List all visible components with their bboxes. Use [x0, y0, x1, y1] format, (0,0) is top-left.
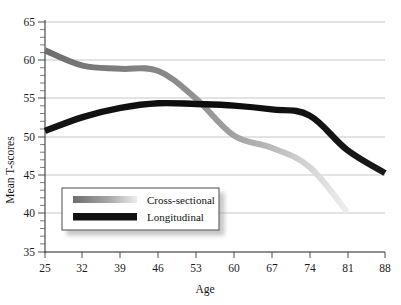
x-tick-label-25: 25 — [39, 262, 51, 274]
x-tick-label-74: 74 — [304, 262, 316, 274]
x-tick-label-46: 46 — [152, 262, 164, 274]
x-tick-label-60: 60 — [228, 262, 240, 274]
x-tick-label-32: 32 — [76, 262, 88, 274]
x-tick-label-67: 67 — [266, 262, 278, 274]
line-chart: 65 60 55 50 45 40 35 Mean T-scores 25 32… — [0, 0, 401, 305]
legend-label-cross-sectional: Cross-sectional — [147, 194, 215, 206]
y-tick-label-35: 35 — [24, 246, 36, 258]
y-axis-title: Mean T-scores — [4, 136, 16, 204]
series-line-longitudinal — [45, 103, 385, 173]
chart-container: 65 60 55 50 45 40 35 Mean T-scores 25 32… — [0, 0, 401, 305]
x-tick-label-81: 81 — [342, 262, 354, 274]
y-tick-label-50: 50 — [24, 131, 36, 143]
y-tick-label-65: 65 — [24, 16, 36, 28]
y-tick-label-55: 55 — [24, 92, 36, 104]
y-tick-label-45: 45 — [24, 169, 36, 181]
legend: Cross-sectional Longitudinal — [62, 188, 219, 230]
legend-label-longitudinal: Longitudinal — [147, 211, 204, 223]
y-tick-label-60: 60 — [24, 54, 36, 66]
y-tick-label-40: 40 — [24, 207, 36, 219]
legend-swatch-longitudinal — [73, 213, 137, 221]
x-axis-title: Age — [195, 283, 214, 296]
x-axis: 25 32 39 46 53 60 67 74 81 88 Age — [39, 252, 391, 296]
x-tick-label-39: 39 — [114, 262, 126, 274]
x-tick-label-88: 88 — [379, 262, 391, 274]
legend-swatch-cross-sectional — [73, 196, 137, 203]
y-axis: 65 60 55 50 45 40 35 Mean T-scores — [4, 16, 45, 258]
x-tick-label-53: 53 — [190, 262, 202, 274]
